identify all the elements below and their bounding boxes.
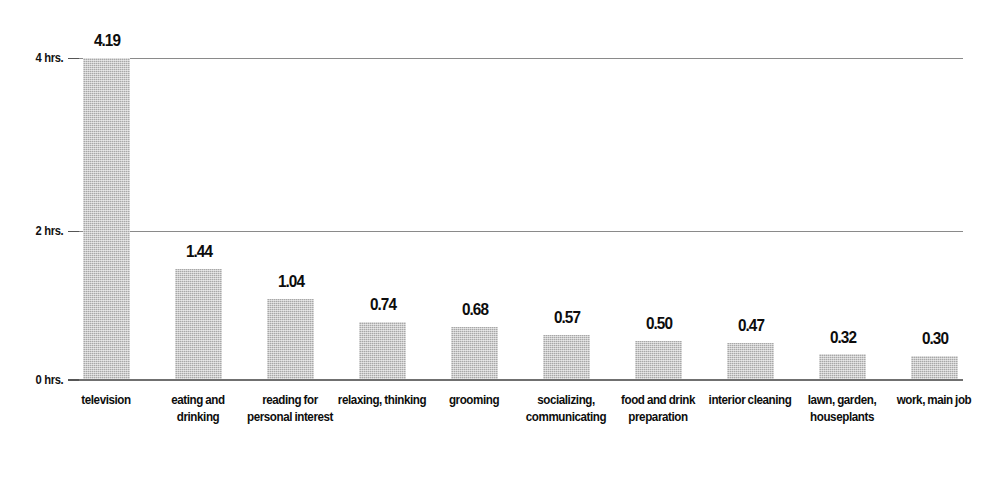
value-label-reading-for-personal-interest: 1.04 — [251, 272, 332, 292]
ytick-label-2: 4 hrs. — [35, 50, 63, 65]
value-label-lawn-garden-houseplants: 0.32 — [803, 328, 884, 348]
bar-food-and-drink-preparation — [635, 341, 682, 379]
bar-interior-cleaning — [727, 343, 774, 379]
bar-relaxing-thinking — [359, 322, 406, 379]
bar-lawn-garden-houseplants — [819, 354, 866, 379]
bars-container — [78, 0, 963, 379]
tick-stub-0hrs — [68, 379, 79, 381]
bar-work-main-job — [911, 356, 958, 379]
value-label-television: 4.19 — [67, 31, 148, 51]
bar-socializing-communicating — [543, 335, 590, 379]
value-label-socializing-communicating: 0.57 — [527, 308, 608, 328]
ytick-label-0: 0 hrs. — [35, 372, 63, 387]
bar-reading-for-personal-interest — [267, 299, 314, 379]
value-label-interior-cleaning: 0.47 — [711, 316, 792, 336]
category-label-interior-cleaning: interior cleaning — [705, 392, 794, 409]
ytick-label-1: 2 hrs. — [35, 223, 63, 238]
value-label-eating-and-drinking: 1.44 — [159, 242, 240, 262]
category-label-socializing-communicating: socializing, communicating — [521, 392, 610, 426]
value-label-relaxing-thinking: 0.74 — [343, 295, 424, 315]
bar-television — [83, 58, 130, 380]
value-label-grooming: 0.68 — [435, 300, 516, 320]
category-label-grooming: grooming — [429, 392, 518, 409]
category-label-television: television — [61, 392, 150, 409]
category-label-relaxing-thinking: relaxing, thinking — [337, 392, 426, 409]
bar-grooming — [451, 327, 498, 379]
value-label-work-main-job: 0.30 — [895, 329, 976, 349]
category-label-work-main-job: work, main job — [889, 392, 978, 409]
bar-eating-and-drinking — [175, 269, 222, 380]
plot-area: 4.19 1.44 1.04 0.74 0.68 0.57 0.50 0.47 … — [78, 0, 963, 381]
category-label-lawn-garden-houseplants: lawn, garden, houseplants — [797, 392, 886, 426]
value-label-food-and-drink-preparation: 0.50 — [619, 314, 700, 334]
bar-chart: 0 hrs. 2 hrs. 4 hrs. — [0, 0, 987, 485]
category-label-food-and-drink-preparation: food and drink preparation — [613, 392, 702, 426]
category-label-reading-for-personal-interest: reading for personal interest — [245, 392, 334, 426]
gridline-0hrs-axis — [78, 379, 963, 381]
category-label-eating-and-drinking: eating and drinking — [153, 392, 242, 426]
